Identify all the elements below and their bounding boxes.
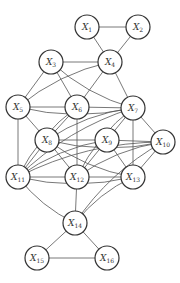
node-x12: X12 — [65, 165, 89, 189]
node-x7: X7 — [121, 96, 145, 120]
node-x2: X2 — [126, 15, 150, 39]
node-x11: X11 — [6, 165, 30, 189]
node-x6: X6 — [65, 95, 89, 119]
node-x5: X5 — [6, 95, 30, 119]
node-x4: X4 — [98, 50, 122, 74]
node-x10: X10 — [151, 130, 175, 154]
node-x3: X3 — [39, 50, 63, 74]
node-x15: X15 — [25, 246, 49, 270]
edge-x3-x7 — [51, 62, 133, 108]
node-x14: X14 — [63, 211, 87, 235]
node-x9: X9 — [95, 128, 119, 152]
node-x8: X8 — [35, 128, 59, 152]
graph-diagram: X1X2X3X4X5X6X7X8X9X10X11X12X13X14X15X16 — [0, 0, 180, 283]
node-x1: X1 — [75, 15, 99, 39]
node-x16: X16 — [95, 246, 119, 270]
node-x13: X13 — [121, 165, 145, 189]
